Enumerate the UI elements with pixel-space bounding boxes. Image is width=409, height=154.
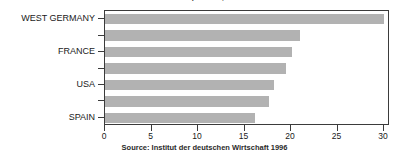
bar	[105, 80, 274, 91]
x-axis-tick-label: 10	[187, 131, 207, 141]
bars-layer	[105, 11, 388, 124]
y-axis-tick	[98, 84, 104, 85]
y-axis-tick	[98, 68, 104, 69]
y-axis-tick	[98, 51, 104, 52]
bar	[105, 113, 255, 124]
x-axis-tick-label: 25	[327, 131, 347, 141]
y-axis-tick	[98, 100, 104, 101]
chart-title: DM per hour, male and female workers	[104, 0, 389, 1]
y-axis-tick	[98, 35, 104, 36]
source-note: Source: Institut der deutschen Wirtschaf…	[0, 143, 409, 152]
x-axis-tick-label: 0	[94, 131, 114, 141]
y-axis-label: USA	[76, 79, 95, 89]
x-axis-tick-label: 30	[373, 131, 393, 141]
y-axis-tick	[98, 18, 104, 19]
bar	[105, 63, 286, 74]
x-axis-tick-label: 20	[280, 131, 300, 141]
y-axis-tick	[98, 117, 104, 118]
x-axis-tick-label: 5	[141, 131, 161, 141]
bar	[105, 14, 384, 25]
y-axis-label: SPAIN	[69, 112, 95, 122]
bar	[105, 47, 292, 58]
plot-area	[104, 10, 389, 125]
y-axis-label: WEST GERMANY	[21, 13, 95, 23]
y-axis-label: FRANCE	[58, 46, 95, 56]
bar-chart: DM per hour, male and female workers WES…	[0, 0, 409, 154]
bar	[105, 96, 269, 107]
x-axis-tick-label: 15	[234, 131, 254, 141]
bar	[105, 30, 300, 41]
